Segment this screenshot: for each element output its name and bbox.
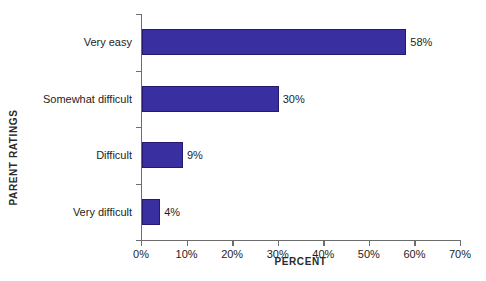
bar-value-label: 4% (164, 206, 180, 218)
bar-value-label: 30% (283, 93, 305, 105)
y-axis-tick (136, 71, 141, 72)
chart-category-row: Somewhat difficult30% (141, 71, 460, 128)
bar (142, 86, 279, 112)
bar (142, 142, 183, 168)
bar (142, 29, 406, 55)
bar-value-label: 58% (410, 36, 432, 48)
y-axis-tick-label: Very difficult (73, 206, 132, 218)
x-axis-tick (141, 240, 142, 246)
y-axis-tick (136, 184, 141, 185)
bar-chart: PARENT RATINGS Very easy58%Somewhat diff… (0, 0, 486, 281)
x-axis-tick (323, 240, 324, 246)
x-axis-title: PERCENT (141, 256, 460, 267)
x-axis-tick (369, 240, 370, 246)
y-axis-tick-label: Somewhat difficult (43, 93, 132, 105)
chart-category-row: Very easy58% (141, 14, 460, 71)
bar-value-label: 9% (187, 149, 203, 161)
y-axis-title: PARENT RATINGS (0, 0, 26, 281)
x-axis-tick (414, 240, 415, 246)
chart-category-row: Difficult9% (141, 127, 460, 184)
plot-area: Very easy58%Somewhat difficult30%Difficu… (141, 14, 460, 240)
y-axis-tick-label: Very easy (84, 36, 132, 48)
y-axis-tick (136, 127, 141, 128)
bar (142, 199, 160, 225)
x-axis-tick (187, 240, 188, 246)
x-axis-tick (460, 240, 461, 246)
x-axis-tick (232, 240, 233, 246)
x-axis-tick (278, 240, 279, 246)
x-axis-line (141, 240, 460, 241)
y-axis-tick (136, 14, 141, 15)
y-axis-tick-label: Difficult (96, 149, 132, 161)
chart-category-row: Very difficult4% (141, 184, 460, 241)
